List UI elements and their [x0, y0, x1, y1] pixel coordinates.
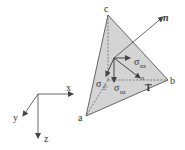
vertex-label-c: c: [104, 3, 109, 14]
normal-label: n: [163, 12, 169, 23]
coordinate-axes: x y z: [13, 82, 73, 144]
svg-text:nx: nx: [140, 63, 146, 69]
vertex-label-a: a: [78, 112, 83, 123]
vertex-label-b: b: [170, 75, 175, 86]
y-axis: [23, 94, 38, 116]
svg-text:ny: ny: [101, 84, 108, 91]
svg-text:T: T: [145, 82, 152, 93]
inclined-face: [86, 15, 168, 116]
svg-text:n: n: [141, 75, 144, 81]
z-axis-label: z: [44, 133, 49, 144]
tetrahedron: [86, 15, 168, 116]
y-axis-label: y: [13, 112, 18, 123]
tetrahedron-diagram: c b a n σ nx σ ny σ nz n T x y z: [0, 0, 185, 150]
svg-text:nz: nz: [120, 89, 126, 95]
x-axis-label: x: [66, 82, 71, 93]
